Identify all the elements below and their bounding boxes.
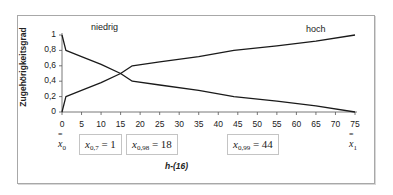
x-bar-1-annotation: = x1	[349, 132, 357, 152]
series-label-hoch: hoch	[306, 24, 326, 34]
x-tick-label: 65	[308, 119, 324, 129]
series-line-hoch	[62, 35, 355, 112]
annotation-x099: x0,99 = 44	[227, 134, 279, 155]
x-tick-label: 50	[249, 119, 265, 129]
x-tick-label: 0	[54, 119, 70, 129]
annotation-x098: x0,98 = 18	[126, 134, 178, 155]
x-tick-label: 70	[327, 119, 343, 129]
x-tick-label: 55	[269, 119, 285, 129]
y-tick-label: 0,8	[36, 44, 56, 54]
x-tick-label: 30	[171, 119, 187, 129]
x-tick-label: 5	[74, 119, 90, 129]
plot-area	[0, 0, 393, 195]
y-axis-label: Zugehörigkeitsgrad	[18, 22, 28, 112]
y-tick-label: 0,2	[36, 91, 56, 101]
x-axis-label: h-(16)	[165, 161, 188, 171]
series-label-niedrig: niedrig	[91, 22, 118, 32]
x-tick-label: 40	[210, 119, 226, 129]
x-tick-label: 15	[113, 119, 129, 129]
x-tick-label: 75	[347, 119, 363, 129]
x-bar-0-annotation: = x0	[58, 132, 66, 152]
x-tick-label: 10	[93, 119, 109, 129]
y-tick-label: 1	[36, 29, 56, 39]
x-tick-label: 60	[288, 119, 304, 129]
series-line-niedrig	[62, 35, 355, 112]
x-tick-label: 35	[191, 119, 207, 129]
y-tick-label: 0,6	[36, 60, 56, 70]
y-tick-label: 0,4	[36, 75, 56, 85]
x-tick-label: 25	[152, 119, 168, 129]
y-tick-label: 0	[36, 106, 56, 116]
x-tick-label: 20	[132, 119, 148, 129]
annotation-x07: x0,7 = 1	[79, 134, 122, 155]
x-tick-label: 45	[230, 119, 246, 129]
